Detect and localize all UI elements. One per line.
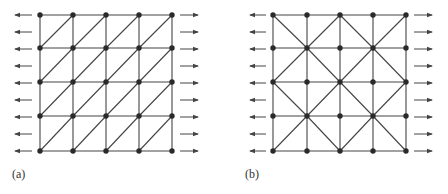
mesh-node (136, 79, 141, 84)
mesh-node (337, 79, 342, 84)
mesh-diagonal-edge (373, 15, 406, 48)
panel-b-label: (b) (245, 167, 259, 182)
mesh-node (103, 79, 108, 84)
mesh-node (136, 45, 141, 50)
mesh-node (304, 113, 309, 118)
mesh-diagonal-edge (139, 82, 172, 116)
mesh-diagonal-edge (307, 116, 340, 151)
mesh-node (37, 148, 42, 153)
mesh-node (70, 45, 75, 50)
mesh-diagonal-edge (273, 48, 307, 82)
mesh-diagonal-edge (373, 48, 406, 82)
mesh-diagonal-edge (340, 116, 373, 151)
mesh-node (37, 45, 42, 50)
mesh-node (70, 12, 75, 17)
mesh-node (169, 45, 174, 50)
mesh-diagonal-edge (40, 48, 73, 82)
mesh-node (270, 12, 275, 17)
mesh-node (270, 113, 275, 118)
mesh-node (270, 45, 275, 50)
mesh-diagonal-edge (340, 82, 373, 116)
mesh-diagonal-edge (73, 48, 106, 82)
mesh-diagonal-edge (139, 15, 172, 48)
mesh-diagonal-edge (139, 48, 172, 82)
mesh-node (169, 148, 174, 153)
mesh-node (370, 148, 375, 153)
mesh-diagonal-edge (273, 82, 307, 116)
mesh-node (136, 148, 141, 153)
mesh-diagonal-edge (307, 15, 340, 48)
mesh-diagonal-edge (273, 116, 307, 151)
mesh-diagonal-edge (73, 82, 106, 116)
mesh-node (403, 113, 408, 118)
mesh-diagonal-edge (106, 15, 139, 48)
mesh-node (403, 79, 408, 84)
mesh-diagonal-edge (307, 48, 340, 82)
mesh-node (337, 113, 342, 118)
mesh-node (370, 45, 375, 50)
mesh-node (37, 79, 42, 84)
mesh-diagram (0, 0, 448, 194)
mesh-diagonal-edge (373, 116, 406, 151)
mesh-diagonal-edge (106, 116, 139, 151)
mesh-diagonal-edge (307, 82, 340, 116)
mesh-diagonal-edge (40, 82, 73, 116)
mesh-diagonal-edge (139, 116, 172, 151)
mesh-diagonal-edge (40, 15, 73, 48)
mesh-diagonal-edge (73, 116, 106, 151)
mesh-node (136, 12, 141, 17)
mesh-node (136, 113, 141, 118)
mesh-node (103, 148, 108, 153)
mesh-node (337, 12, 342, 17)
mesh-diagonal-edge (106, 48, 139, 82)
mesh-diagonal-edge (273, 15, 307, 48)
mesh-node (70, 113, 75, 118)
mesh-node (270, 148, 275, 153)
mesh-node (169, 12, 174, 17)
mesh-node (103, 113, 108, 118)
mesh-node (103, 12, 108, 17)
mesh-node (403, 148, 408, 153)
mesh-node (270, 79, 275, 84)
mesh-node (169, 113, 174, 118)
mesh-node (169, 79, 174, 84)
mesh-diagonal-edge (40, 116, 73, 151)
mesh-diagonal-edge (106, 82, 139, 116)
mesh-node (337, 45, 342, 50)
mesh-node (304, 12, 309, 17)
mesh-node (370, 79, 375, 84)
mesh-node (304, 45, 309, 50)
mesh-diagonal-edge (340, 48, 373, 82)
mesh-diagonal-edge (373, 82, 406, 116)
mesh-node (70, 148, 75, 153)
panel-a-label: (a) (12, 167, 25, 182)
mesh-node (337, 148, 342, 153)
mesh-node (304, 79, 309, 84)
mesh-node (103, 45, 108, 50)
mesh-node (370, 12, 375, 17)
mesh-node (370, 113, 375, 118)
mesh-diagonal-edge (340, 15, 373, 48)
mesh-node (70, 79, 75, 84)
mesh-node (37, 113, 42, 118)
mesh-diagonal-edge (73, 15, 106, 48)
mesh-node (304, 148, 309, 153)
mesh-node (403, 12, 408, 17)
mesh-node (37, 12, 42, 17)
mesh-node (403, 45, 408, 50)
